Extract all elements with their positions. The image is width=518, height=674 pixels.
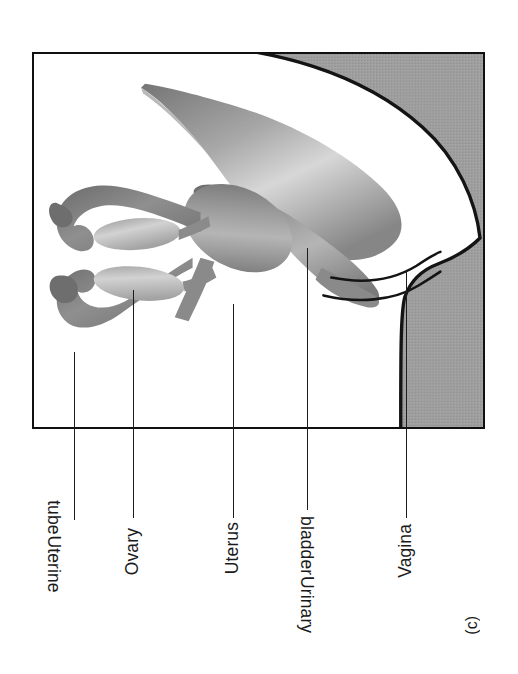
ovary-lower bbox=[92, 262, 186, 305]
ovary-upper bbox=[92, 215, 181, 253]
leader-line-uterus bbox=[233, 304, 234, 518]
leader-line-vagina bbox=[406, 270, 407, 518]
label-uterine-tube-line1: Uterine bbox=[44, 535, 63, 592]
label-urinary-bladder-line2: bladder bbox=[297, 516, 316, 575]
figure-caption: (c) bbox=[463, 616, 481, 635]
leader-line-ovary bbox=[133, 290, 134, 518]
label-urinary-bladder-line1: Urinary bbox=[297, 576, 316, 633]
label-uterine-tube-line2: tube bbox=[44, 500, 63, 534]
anatomy-illustration bbox=[34, 54, 483, 427]
leader-line-uterine-tube bbox=[74, 352, 75, 520]
figure-panel bbox=[32, 52, 485, 429]
label-vagina: Vagina bbox=[396, 524, 415, 578]
label-uterus: Uterus bbox=[223, 522, 242, 574]
label-urinary-bladder: Urinary bladder bbox=[297, 516, 316, 633]
label-ovary: Ovary bbox=[123, 528, 142, 575]
leader-line-urinary-bladder bbox=[307, 248, 308, 510]
label-uterine-tube: Uterine tube bbox=[44, 500, 63, 593]
